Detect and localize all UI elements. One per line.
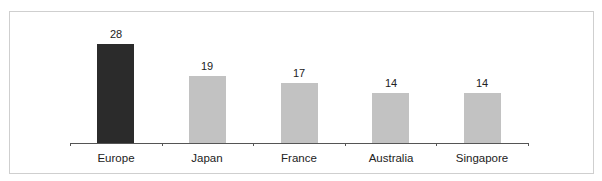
- x-axis-tick: [528, 143, 529, 146]
- data-label: 14: [361, 77, 421, 89]
- bar-singapore: [464, 93, 501, 143]
- bar-france: [281, 83, 318, 143]
- x-axis-label: France: [254, 152, 344, 164]
- x-axis-label: Europe: [71, 152, 161, 164]
- bar-australia: [372, 93, 409, 143]
- x-axis-line: [70, 143, 528, 144]
- bar-europe: [97, 44, 134, 143]
- x-axis-label: Singapore: [437, 152, 527, 164]
- data-label: 17: [269, 67, 329, 79]
- x-axis-label: Australia: [346, 152, 436, 164]
- data-label: 14: [452, 77, 512, 89]
- data-label: 28: [86, 28, 146, 40]
- bar-japan: [189, 76, 226, 143]
- x-axis-label: Japan: [162, 152, 252, 164]
- data-label: 19: [177, 60, 237, 72]
